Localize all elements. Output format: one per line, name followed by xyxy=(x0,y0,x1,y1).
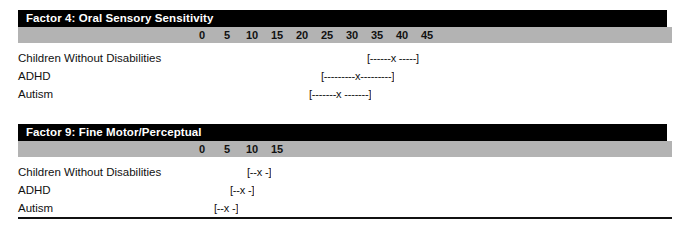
figure-page: Factor 4: Oral Sensory Sensitivity 0 5 1… xyxy=(0,0,684,234)
axis-tick-20: 20 xyxy=(296,27,308,43)
data-rows-1: Children Without Disabilities [------x -… xyxy=(18,49,672,103)
axis-tick-0: 0 xyxy=(199,141,205,157)
range-bar-adhd: [--x -] xyxy=(230,181,254,199)
row-label-adhd: ADHD xyxy=(18,67,51,85)
factor-title-1: Factor 4: Oral Sensory Sensitivity xyxy=(26,11,213,26)
factor-chart-1: Factor 4: Oral Sensory Sensitivity 0 5 1… xyxy=(18,10,672,103)
axis-tick-25: 25 xyxy=(321,27,333,43)
table-row: Children Without Disabilities [--x -] xyxy=(18,163,672,181)
range-bar-children-without-disabilities: [------x -----] xyxy=(367,49,419,67)
row-label-autism: Autism xyxy=(18,85,53,103)
axis-tick-10: 10 xyxy=(246,27,258,43)
row-label-children-without-disabilities: Children Without Disabilities xyxy=(18,49,161,67)
factor-title-bar-2: Factor 9: Fine Motor/Perceptual xyxy=(18,124,667,141)
table-row: ADHD [---------x---------] xyxy=(18,67,672,85)
axis-tick-15: 15 xyxy=(271,27,283,43)
row-label-adhd: ADHD xyxy=(18,181,51,199)
axis-tick-5: 5 xyxy=(224,141,230,157)
data-rows-2: Children Without Disabilities [--x -] AD… xyxy=(18,163,672,217)
range-bar-children-without-disabilities: [--x -] xyxy=(247,163,271,181)
axis-tick-30: 30 xyxy=(346,27,358,43)
axis-tick-10: 10 xyxy=(246,141,258,157)
factor-title-2: Factor 9: Fine Motor/Perceptual xyxy=(26,125,202,140)
axis-tick-45: 45 xyxy=(421,27,433,43)
table-row: Autism [-------x -------] xyxy=(18,85,672,103)
axis-tick-40: 40 xyxy=(396,27,408,43)
factor-title-bar-1: Factor 4: Oral Sensory Sensitivity xyxy=(18,10,667,27)
axis-bar-2: 0 5 10 15 xyxy=(18,141,672,157)
row-label-children-without-disabilities: Children Without Disabilities xyxy=(18,163,161,181)
bottom-divider xyxy=(18,217,672,219)
table-row: Children Without Disabilities [------x -… xyxy=(18,49,672,67)
range-bar-adhd: [---------x---------] xyxy=(321,67,394,85)
factor-chart-2: Factor 9: Fine Motor/Perceptual 0 5 10 1… xyxy=(18,124,672,217)
axis-tick-0: 0 xyxy=(199,27,205,43)
table-row: Autism [--x -] xyxy=(18,199,672,217)
axis-tick-5: 5 xyxy=(224,27,230,43)
axis-tick-15: 15 xyxy=(271,141,283,157)
axis-tick-35: 35 xyxy=(371,27,383,43)
range-bar-autism: [-------x -------] xyxy=(309,85,371,103)
axis-bar-1: 0 5 10 15 20 25 30 35 40 45 xyxy=(18,27,672,43)
table-row: ADHD [--x -] xyxy=(18,181,672,199)
row-label-autism: Autism xyxy=(18,199,53,217)
range-bar-autism: [--x -] xyxy=(214,199,238,217)
